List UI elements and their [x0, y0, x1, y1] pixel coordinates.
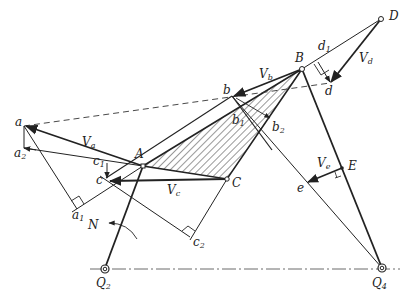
- label-D: D: [389, 10, 399, 22]
- right-angle-d1: [314, 64, 329, 75]
- label-a1: a1: [72, 209, 84, 223]
- label-a: a: [15, 116, 22, 128]
- line-A-a2: [24, 148, 143, 166]
- label-Q2: Q2: [96, 277, 111, 291]
- pivot-Q2-inner: [103, 267, 107, 271]
- label-Vc: Vc: [167, 184, 180, 198]
- label-C: C: [232, 177, 241, 189]
- label-e: e: [297, 182, 304, 194]
- label-Vd: Vd: [359, 52, 373, 66]
- label-c2: c2: [193, 236, 205, 250]
- label-d1: d1: [318, 40, 331, 54]
- label-a2: a2: [14, 147, 26, 161]
- label-d: d: [325, 85, 333, 97]
- label-c: c: [96, 174, 103, 186]
- label-N: N: [88, 219, 99, 231]
- line-C-c2: [190, 179, 227, 240]
- mechanism-diagram: D B A C E Q2 Q4 a a2 a1 b b1 b2 c1 c c2 …: [0, 0, 414, 303]
- line-a-a1: [24, 126, 77, 209]
- joint-A: [141, 164, 145, 168]
- line-d1-d: [318, 62, 330, 82]
- label-b: b: [223, 84, 231, 96]
- label-A: A: [135, 148, 144, 160]
- label-b1: b1: [232, 114, 245, 128]
- right-angle-e: [335, 172, 341, 178]
- label-b2: b2: [272, 121, 285, 135]
- dashed-line-a-d: [24, 83, 330, 126]
- label-B: B: [295, 52, 304, 64]
- label-c1: c1: [93, 155, 105, 169]
- label-E: E: [348, 160, 357, 172]
- joint-B: [300, 67, 305, 72]
- label-Vb: Vb: [259, 68, 273, 82]
- label-Q4: Q4: [372, 277, 387, 291]
- joint-C: [225, 177, 229, 181]
- rotation-arrow-N: [109, 223, 137, 239]
- vector-Vd: [331, 19, 381, 82]
- line-b-e: [232, 96, 382, 268]
- joint-E: [340, 166, 344, 170]
- vector-Vc: [110, 179, 227, 181]
- right-angle-c2: [182, 226, 195, 231]
- diagram-canvas: [0, 0, 414, 303]
- label-Va: Va: [82, 136, 95, 150]
- joint-D: [379, 17, 384, 22]
- pivot-Q4-inner: [380, 266, 384, 270]
- label-Ve: Ve: [317, 157, 330, 171]
